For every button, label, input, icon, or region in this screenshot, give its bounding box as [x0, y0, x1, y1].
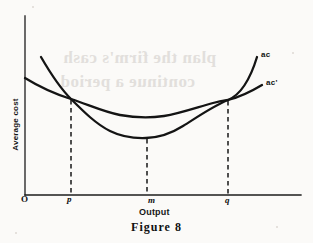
x-tick-label-m: m [148, 195, 155, 205]
figure-caption: Figure 8 [0, 220, 313, 235]
y-axis-title: Average cost [11, 85, 20, 165]
curve-label-ac: ac [261, 50, 271, 59]
figure-8-container: plan the firm's cash continue a period A… [0, 0, 313, 243]
axis-origin-label: O [21, 194, 28, 204]
curve-label-ac-prime: ac' [266, 78, 278, 87]
x-tick-label-q: q [225, 195, 230, 205]
curve-ac-prime [25, 78, 262, 117]
x-axis-title: Output [139, 207, 170, 217]
x-tick-label-p: p [67, 194, 72, 204]
curve-ac [41, 57, 257, 138]
